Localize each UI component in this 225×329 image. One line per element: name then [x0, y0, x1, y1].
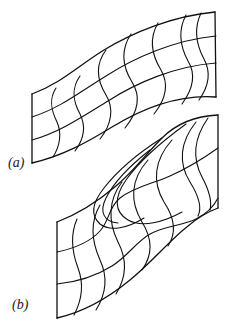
panel-b-vline-2 [93, 205, 105, 310]
panel-a-vline-7 [197, 13, 209, 100]
panel-a-vline-3 [98, 50, 110, 139]
panel-b-hline-1 [57, 148, 218, 252]
panel-a-hline-1 [32, 36, 216, 117]
panel-a-vline-5 [152, 23, 165, 114]
panel-b-vline-7 [196, 118, 211, 210]
mesh-diagram [0, 0, 225, 329]
panel-label-b: (b) [12, 297, 28, 313]
panel-b-vline-4 [134, 160, 151, 270]
panel-b-mesh [57, 115, 218, 318]
panel-a-vline-2 [74, 76, 84, 151]
panel-label-a: (a) [8, 155, 24, 171]
panel-a-right-boundary [215, 12, 216, 97]
panel-b-top-boundary [57, 115, 218, 222]
panel-a-vline-1 [51, 88, 59, 157]
panel-b-vline-1 [73, 219, 82, 315]
panel-a-vline-6 [181, 15, 193, 104]
figure-container: (a) (b) [0, 0, 225, 329]
panel-a-mesh [32, 12, 216, 163]
panel-b-bottom-boundary [57, 208, 218, 318]
